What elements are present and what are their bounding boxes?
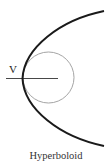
osculating-circle [23, 52, 74, 103]
diagram-canvas [0, 0, 112, 168]
hyperboloid-figure: V Hyperboloid [0, 0, 112, 168]
vertex-label: V [9, 64, 17, 75]
figure-caption: Hyperboloid [0, 151, 112, 162]
